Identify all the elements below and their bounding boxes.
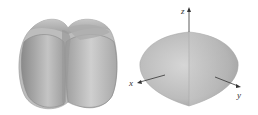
x-axis-label: x: [128, 78, 133, 88]
left-solid-right-lobe: [65, 35, 117, 108]
right-solid: [140, 32, 238, 106]
left-solid: [19, 19, 117, 109]
right-solid-right-face: [189, 32, 238, 106]
y-axis-arrowhead-icon: [236, 84, 241, 88]
x-axis-arrowhead-icon: [137, 80, 142, 84]
figure-canvas: z x y: [0, 0, 258, 115]
z-axis-arrowhead-icon: [187, 7, 191, 12]
y-axis-label: y: [236, 90, 241, 100]
z-axis-label: z: [180, 6, 185, 16]
left-solid-left-lobe: [21, 35, 65, 108]
